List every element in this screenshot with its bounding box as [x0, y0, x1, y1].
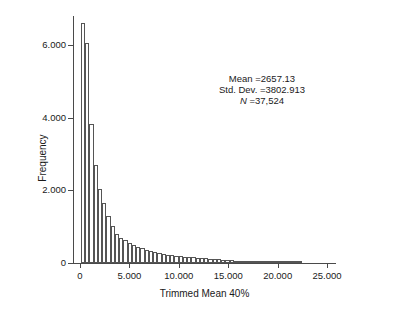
std-dev-label: Std. Dev. =3802.913: [196, 84, 328, 95]
mean-label: Mean =2657.13: [196, 73, 328, 84]
x-tick-mark: [278, 263, 279, 268]
y-tick-mark: [68, 190, 73, 191]
statistics-annotation: Mean =2657.13 Std. Dev. =3802.913 N =37,…: [196, 73, 328, 106]
x-tick-mark: [327, 263, 328, 268]
x-axis-title: Trimmed Mean 40%: [73, 288, 336, 299]
y-tick-label: 2.000: [42, 186, 66, 196]
y-tick-label: 6.000: [42, 40, 66, 50]
n-value: =37,524: [247, 95, 284, 106]
histogram-bar: [298, 261, 302, 263]
y-tick-mark: [68, 45, 73, 46]
x-tick-label: 20.000: [263, 271, 292, 281]
n-symbol: N: [240, 95, 247, 106]
x-axis-line: [73, 263, 336, 264]
x-tick-label: 0: [77, 271, 82, 281]
x-tick-mark: [129, 263, 130, 268]
y-tick-mark: [68, 118, 73, 119]
x-tick-label: 10.000: [164, 271, 193, 281]
sample-size-label: N =37,524: [196, 95, 328, 106]
x-tick-label: 25.000: [313, 271, 342, 281]
x-tick-mark: [179, 263, 180, 268]
x-tick-label: 5.000: [117, 271, 141, 281]
y-tick-label: 0: [61, 258, 66, 268]
x-tick-mark: [80, 263, 81, 268]
x-tick-mark: [228, 263, 229, 268]
y-tick-label: 4.000: [42, 113, 66, 123]
x-tick-label: 15.000: [214, 271, 243, 281]
y-axis-title: Frequency: [37, 134, 48, 181]
histogram-bars: [74, 16, 336, 263]
histogram-figure: Frequency 02.0004.0006.000 05.00010.0001…: [0, 0, 396, 315]
y-tick-mark: [68, 263, 73, 264]
